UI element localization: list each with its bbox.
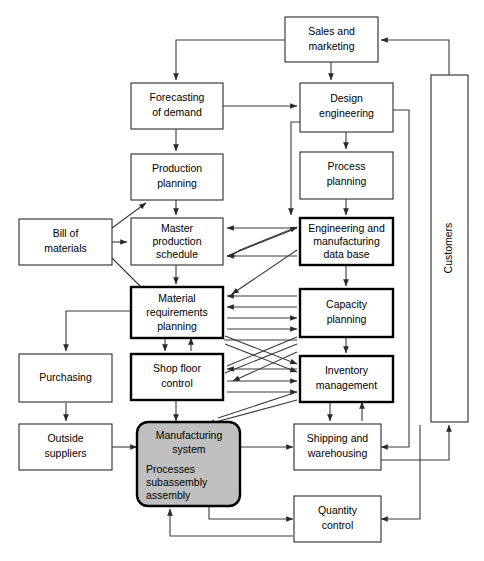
edge-customers-to-quantity (381, 425, 420, 519)
flowchart-diagram: Sales and marketing Forecasting of deman… (0, 0, 484, 561)
edge-manufacturing-to-quantity (209, 506, 293, 519)
edge-inventory-to-manufacturing-2 (218, 392, 297, 418)
node-bom-line2: materials (44, 242, 87, 254)
edge-database-to-mrp-cross (232, 250, 297, 294)
node-shipping-line1: Shipping and (307, 432, 368, 444)
node-manufacturing-detail3: assembly (146, 489, 191, 501)
node-mps-line3: schedule (156, 248, 198, 260)
node-design-line1: Design (330, 92, 363, 104)
node-outside-suppliers[interactable]: Outside suppliers (19, 424, 112, 470)
node-mps-line2: production (152, 235, 201, 247)
node-forecasting-of-demand[interactable]: Forecasting of demand (131, 83, 223, 129)
node-shop-floor-control[interactable]: Shop floor control (131, 354, 223, 400)
node-forecasting-line2: of demand (152, 106, 202, 118)
node-bom-line1: Bill of (53, 227, 79, 239)
node-purchasing[interactable]: Purchasing (19, 354, 112, 402)
edge-cross-stub (231, 250, 240, 256)
node-database-line1: Engineering and (308, 222, 385, 234)
node-customers-label: Customers (442, 223, 454, 274)
node-quantity-control[interactable]: Quantity control (294, 496, 381, 542)
node-sales-marketing-line1: Sales and (308, 25, 355, 37)
node-production-planning-line1: Production (152, 162, 202, 174)
node-shipping-line2: warehousing (307, 447, 368, 459)
node-forecasting-line1: Forecasting (150, 91, 205, 103)
flowchart-canvas: Sales and marketing Forecasting of deman… (0, 0, 484, 561)
node-sales-marketing-line2: marketing (308, 40, 354, 52)
node-quantity-line2: control (322, 519, 354, 531)
node-purchasing-line1: Purchasing (39, 371, 92, 383)
node-manufacturing-system[interactable]: Manufacturing system Processes subassemb… (137, 422, 240, 506)
edge-sales-to-forecasting (176, 40, 285, 80)
node-process-planning-line2: planning (327, 175, 367, 187)
node-sales-marketing[interactable]: Sales and marketing (285, 17, 378, 62)
edge-quantity-to-manufacturing (170, 509, 293, 536)
node-inventory-management[interactable]: Inventory management (300, 356, 393, 402)
node-design-line2: engineering (319, 107, 374, 119)
node-mrp-line1: Material (158, 292, 195, 304)
node-shopfloor-line2: control (161, 377, 193, 389)
edge-mps-to-database-cross (240, 227, 297, 250)
node-customers[interactable]: Customers (431, 75, 468, 422)
node-quantity-line1: Quantity (318, 504, 358, 516)
edge-inventory-to-manufacturing-1 (208, 400, 297, 424)
node-mrp-line2: requirements (146, 306, 207, 318)
node-capacity-planning[interactable]: Capacity planning (300, 289, 393, 337)
node-inventory-line2: management (316, 379, 377, 391)
node-suppliers-line2: suppliers (44, 447, 86, 459)
node-manufacturing-line1: Manufacturing (156, 429, 223, 441)
node-shipping-warehousing[interactable]: Shipping and warehousing (294, 424, 381, 470)
node-master-production-schedule[interactable]: Master production schedule (131, 218, 223, 265)
node-capacity-line1: Capacity (326, 298, 368, 310)
node-process-planning[interactable]: Process planning (300, 152, 393, 199)
node-capacity-line2: planning (327, 313, 367, 325)
node-design-engineering[interactable]: Design engineering (300, 83, 393, 132)
edge-mrp-to-purchasing (66, 311, 131, 351)
node-mrp-line3: planning (157, 320, 197, 332)
node-database-line3: data base (323, 248, 369, 260)
node-manufacturing-line2: system (172, 443, 206, 455)
node-manufacturing-detail2: subassembly (146, 476, 208, 488)
node-production-planning[interactable]: Production planning (131, 154, 223, 200)
node-process-planning-line1: Process (328, 160, 366, 172)
node-shopfloor-line1: Shop floor (153, 362, 201, 374)
node-inventory-line1: Inventory (325, 364, 369, 376)
edge-shipping-to-customers (381, 425, 449, 460)
node-production-planning-line2: planning (157, 177, 197, 189)
edge-customers-to-sales (381, 40, 449, 75)
node-mps-line1: Master (161, 222, 194, 234)
node-material-requirements-planning[interactable]: Material requirements planning (131, 287, 223, 338)
node-database-line2: manufacturing (313, 235, 380, 247)
node-bill-of-materials[interactable]: Bill of materials (19, 219, 112, 265)
node-manufacturing-detail1: Processes (146, 463, 195, 475)
node-suppliers-line1: Outside (47, 432, 83, 444)
node-engineering-database[interactable]: Engineering and manufacturing data base (300, 218, 393, 265)
